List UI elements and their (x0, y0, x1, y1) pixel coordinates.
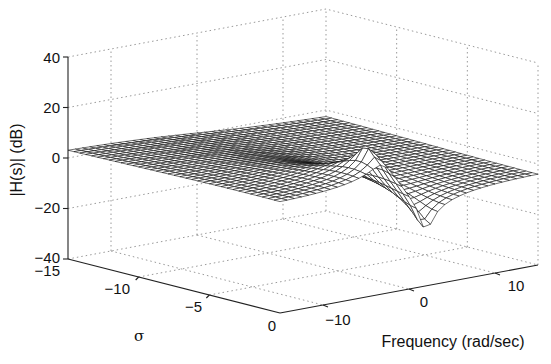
freq-tick-minus10: −10 (325, 311, 350, 328)
z-tick-20: 20 (43, 99, 60, 116)
sigma-tick-minus5: −5 (185, 298, 202, 315)
z-tick-minus20: −20 (35, 199, 60, 216)
sigma-tick-minus10: −10 (105, 280, 130, 297)
freq-tick-0: 0 (420, 293, 428, 310)
freq-axis-label: Frequency (rad/sec) (381, 333, 524, 350)
z-axis-label: |H(s)| (dB) (8, 123, 25, 196)
sigma-tick-minus15: −15 (35, 262, 60, 279)
sigma-axis-label: σ (134, 327, 144, 345)
freq-tick-10: 10 (508, 277, 525, 294)
sigma-axis-line (68, 259, 280, 313)
sigma-tick-0: 0 (268, 317, 276, 334)
surface-plot: 40 20 0 −20 −40 −15 −10 −5 0 −10 0 10 |H… (0, 0, 551, 364)
z-tick-0: 0 (52, 149, 60, 166)
z-tick-40: 40 (43, 49, 60, 66)
